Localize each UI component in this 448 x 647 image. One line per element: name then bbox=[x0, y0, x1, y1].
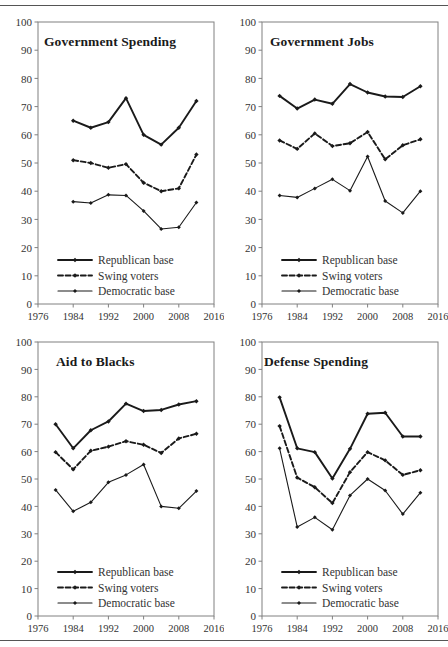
plot-svg-0: 0102030405060708090100197619841992200020… bbox=[0, 8, 224, 330]
legend-marker-1 bbox=[73, 273, 77, 277]
y-tick-label: 40 bbox=[245, 185, 257, 197]
x-tick-label: 2008 bbox=[392, 623, 413, 634]
chart-0: 0102030405060708090100197619841992200020… bbox=[0, 8, 224, 330]
data-point-marker bbox=[71, 158, 75, 162]
data-point-marker bbox=[159, 408, 163, 412]
y-tick-label: 70 bbox=[21, 101, 33, 113]
legend-marker-2 bbox=[73, 601, 77, 605]
data-point-marker bbox=[277, 395, 281, 399]
data-point-marker bbox=[177, 402, 181, 406]
panel-government-jobs: Government Jobs 010203040506070809010019… bbox=[224, 8, 448, 330]
data-point-marker bbox=[71, 200, 75, 204]
series-line-1 bbox=[280, 132, 421, 159]
data-point-marker bbox=[159, 189, 163, 193]
data-point-marker bbox=[295, 525, 299, 529]
x-tick-label: 1984 bbox=[63, 623, 85, 634]
legend-marker-1 bbox=[297, 273, 301, 277]
y-tick-label: 80 bbox=[21, 391, 33, 403]
panel-government-spending: Government Spending 01020304050607080901… bbox=[0, 8, 224, 330]
series-line-2 bbox=[56, 464, 197, 511]
data-point-marker bbox=[418, 137, 422, 141]
plot-svg-2: 0102030405060708090100197619841992200020… bbox=[0, 330, 224, 640]
data-point-marker bbox=[295, 195, 299, 199]
chart-grid: Government Spending 01020304050607080901… bbox=[0, 8, 448, 640]
y-tick-label: 90 bbox=[245, 364, 257, 376]
y-tick-label: 40 bbox=[21, 501, 33, 513]
panel-aid-to-blacks: Aid to Blacks 01020304050607080901001976… bbox=[0, 330, 224, 640]
x-tick-label: 1984 bbox=[287, 311, 309, 322]
legend-label-1: Swing voters bbox=[322, 270, 383, 283]
data-point-marker bbox=[194, 399, 198, 403]
y-tick-label: 100 bbox=[240, 336, 257, 348]
y-tick-label: 30 bbox=[21, 528, 33, 540]
y-tick-label: 0 bbox=[251, 298, 257, 310]
plot-svg-1: 0102030405060708090100197619841992200020… bbox=[224, 8, 448, 330]
y-tick-label: 10 bbox=[21, 583, 33, 595]
legend-marker-0 bbox=[73, 570, 77, 574]
y-tick-label: 100 bbox=[16, 16, 33, 28]
y-tick-label: 10 bbox=[21, 270, 33, 282]
x-tick-label: 1992 bbox=[322, 623, 343, 634]
y-tick-label: 20 bbox=[245, 242, 257, 254]
series-line-2 bbox=[280, 157, 421, 213]
chart-3: 0102030405060708090100197619841992200020… bbox=[224, 330, 448, 640]
legend-marker-2 bbox=[297, 601, 301, 605]
legend-label-0: Republican base bbox=[322, 566, 398, 579]
y-tick-label: 100 bbox=[16, 336, 33, 348]
data-point-marker bbox=[278, 446, 282, 450]
y-tick-label: 40 bbox=[21, 185, 33, 197]
y-tick-label: 10 bbox=[245, 270, 257, 282]
y-tick-label: 60 bbox=[21, 446, 33, 458]
x-tick-label: 2008 bbox=[392, 311, 413, 322]
y-tick-label: 70 bbox=[21, 418, 33, 430]
y-tick-label: 80 bbox=[21, 73, 33, 85]
x-tick-label: 1984 bbox=[63, 311, 85, 322]
x-tick-label: 2000 bbox=[133, 311, 154, 322]
y-tick-label: 20 bbox=[21, 242, 33, 254]
data-point-marker bbox=[418, 468, 422, 472]
data-point-marker bbox=[106, 444, 110, 448]
legend: Republican baseSwing votersDemocratic ba… bbox=[282, 254, 399, 297]
legend-marker-2 bbox=[73, 289, 77, 293]
y-tick-label: 40 bbox=[245, 501, 257, 513]
x-tick-label: 1984 bbox=[287, 623, 309, 634]
legend: Republican baseSwing votersDemocratic ba… bbox=[58, 254, 175, 297]
x-tick-label: 2008 bbox=[168, 311, 189, 322]
x-tick-label: 2000 bbox=[357, 311, 378, 322]
legend: Republican baseSwing votersDemocratic ba… bbox=[58, 566, 175, 609]
x-tick-label: 1976 bbox=[252, 311, 273, 322]
y-tick-label: 50 bbox=[245, 157, 257, 169]
bottom-divider-rule bbox=[0, 640, 448, 641]
series-line-0 bbox=[73, 98, 196, 145]
data-point-marker bbox=[89, 161, 93, 165]
y-tick-label: 80 bbox=[245, 73, 257, 85]
series-line-0 bbox=[280, 84, 421, 109]
legend-marker-2 bbox=[297, 289, 301, 293]
legend-label-1: Swing voters bbox=[322, 582, 383, 595]
y-tick-label: 90 bbox=[21, 44, 33, 56]
y-tick-label: 30 bbox=[21, 214, 33, 226]
data-point-marker bbox=[194, 432, 198, 436]
x-tick-label: 1992 bbox=[98, 623, 119, 634]
data-point-marker bbox=[313, 186, 317, 190]
legend-marker-1 bbox=[73, 585, 77, 589]
data-point-marker bbox=[278, 193, 282, 197]
legend-marker-0 bbox=[297, 258, 301, 262]
legend-marker-1 bbox=[297, 585, 301, 589]
x-tick-label: 1976 bbox=[252, 623, 273, 634]
y-tick-label: 100 bbox=[240, 16, 257, 28]
x-tick-label: 2016 bbox=[204, 311, 225, 322]
chart-2: 0102030405060708090100197619841992200020… bbox=[0, 330, 224, 640]
legend: Republican baseSwing votersDemocratic ba… bbox=[282, 566, 399, 609]
y-tick-label: 90 bbox=[245, 44, 257, 56]
legend-label-0: Republican base bbox=[98, 254, 174, 267]
panel-defense-spending: Defense Spending 01020304050607080901001… bbox=[224, 330, 448, 640]
data-point-marker bbox=[295, 446, 299, 450]
legend-label-0: Republican base bbox=[98, 566, 174, 579]
x-tick-label: 1992 bbox=[322, 311, 343, 322]
legend-label-2: Democratic base bbox=[98, 285, 175, 297]
legend-label-1: Swing voters bbox=[98, 270, 159, 283]
series-line-1 bbox=[73, 155, 196, 192]
data-point-marker bbox=[418, 434, 422, 438]
data-point-marker bbox=[383, 94, 387, 98]
